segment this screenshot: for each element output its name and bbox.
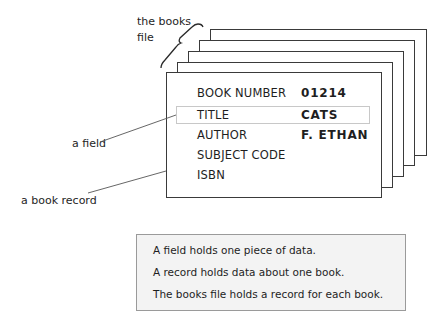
note-line-field: A field holds one piece of data. (153, 244, 316, 257)
field-leader-line (100, 115, 176, 142)
curly-brace-icon (161, 24, 203, 68)
record-leader-line (88, 171, 166, 193)
note-line-file: The books file holds a record for each b… (153, 288, 383, 301)
explanation-box: A field holds one piece of data. A recor… (136, 234, 406, 311)
note-line-record: A record holds data about one book. (153, 266, 344, 279)
